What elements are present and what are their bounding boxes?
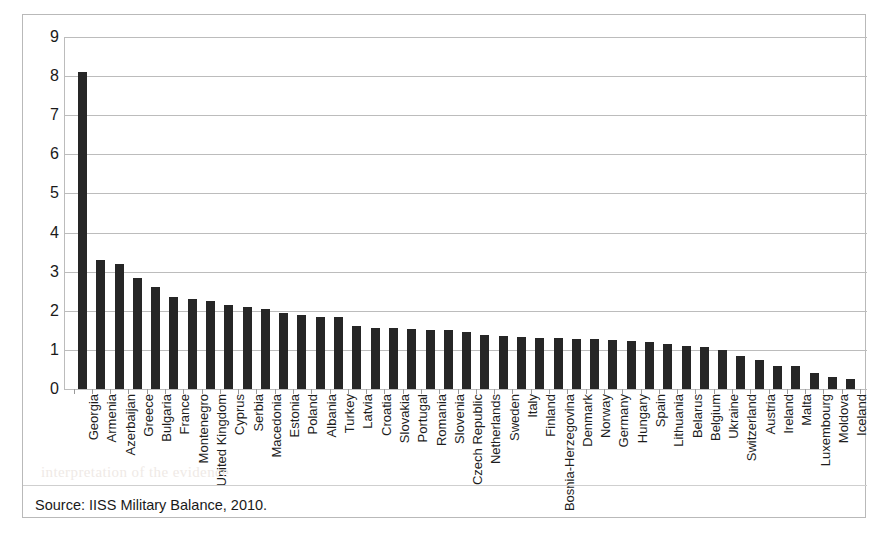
chart-plot-region: 0123456789 GeorgiaArmeniaAzerbaijanGreec… — [23, 15, 867, 458]
bar — [755, 360, 764, 389]
bar — [206, 301, 215, 389]
y-tick-label: 3 — [25, 264, 59, 280]
x-category-label: Bulgaria — [160, 394, 173, 442]
bar — [133, 278, 142, 389]
x-category-label: Sweden — [508, 394, 521, 441]
x-category-label: Norway — [599, 394, 612, 438]
bar — [371, 328, 380, 389]
bar — [663, 344, 672, 389]
x-category-label: Cyprus — [233, 394, 246, 435]
bar — [78, 72, 87, 389]
bar — [535, 338, 544, 389]
x-category-label: Slovakia — [398, 394, 411, 443]
bar — [572, 339, 581, 389]
x-category-label: Greece — [142, 394, 155, 437]
y-tick-label: 7 — [25, 107, 59, 123]
x-category-label: Italy — [526, 394, 539, 418]
y-tick-label: 4 — [25, 225, 59, 241]
bar — [96, 260, 105, 389]
bar — [736, 356, 745, 389]
x-axis-category-labels: GeorgiaArmeniaAzerbaijanGreeceBulgariaFr… — [64, 394, 867, 458]
bar — [645, 342, 654, 389]
bar — [169, 297, 178, 389]
x-category-label: Switzerland — [745, 394, 758, 461]
x-category-label: France — [178, 394, 191, 434]
bar — [810, 373, 819, 389]
bar — [480, 335, 489, 389]
bar — [718, 350, 727, 389]
bar — [426, 330, 435, 389]
x-category-label: Denmark — [581, 394, 594, 447]
x-category-label: Latvia — [361, 394, 374, 429]
bar — [352, 326, 361, 389]
x-category-label: Belgium — [709, 394, 722, 441]
x-category-label: Lithuania — [672, 394, 685, 447]
bar — [224, 305, 233, 389]
x-category-label: Albania — [325, 394, 338, 437]
x-category-label: Czech Republic — [471, 394, 484, 485]
source-caption: Source: IISS Military Balance, 2010. — [35, 497, 267, 513]
x-category-label: United Kingdom — [215, 394, 228, 487]
x-category-label: Spain — [654, 394, 667, 427]
y-tick-label: 0 — [25, 381, 59, 397]
x-category-label: Iceland — [855, 394, 868, 436]
figure-frame: 0123456789 GeorgiaArmeniaAzerbaijanGreec… — [22, 14, 866, 518]
y-tick-label: 5 — [25, 185, 59, 201]
bar — [243, 307, 252, 389]
y-tick-label: 6 — [25, 146, 59, 162]
caption-divider — [23, 485, 867, 486]
x-category-label: Macedonia — [270, 394, 283, 458]
x-category-label: Estonia — [288, 394, 301, 437]
x-category-label: Hungary — [636, 394, 649, 443]
x-category-label: Montenegro — [197, 394, 210, 463]
x-category-label: Slovenia — [453, 394, 466, 444]
x-category-label: Malta — [800, 394, 813, 426]
x-category-label: Netherlands — [489, 394, 502, 464]
x-category-label: Ireland — [782, 394, 795, 434]
bar — [407, 329, 416, 389]
x-category-label: Romania — [435, 394, 448, 446]
bars-layer — [64, 37, 867, 389]
x-category-label: Bosnia-Herzegovina — [563, 394, 576, 511]
bar — [462, 332, 471, 389]
y-tick-label: 8 — [25, 68, 59, 84]
bar — [846, 379, 855, 389]
x-category-label: Turkey — [343, 394, 356, 433]
bar — [151, 287, 160, 389]
x-category-label: Finland — [544, 394, 557, 437]
bar — [773, 366, 782, 389]
page-bleedthrough-text: interpretation of the evidence — [41, 464, 741, 481]
bar — [517, 337, 526, 389]
bar — [444, 330, 453, 389]
bar — [590, 339, 599, 389]
x-category-label: Austria — [764, 394, 777, 434]
bar — [627, 341, 636, 389]
y-axis-tick-labels: 0123456789 — [23, 37, 59, 389]
y-tick-label: 2 — [25, 303, 59, 319]
bar — [791, 366, 800, 389]
bar — [389, 328, 398, 389]
bar — [279, 313, 288, 389]
x-category-label: Portugal — [416, 394, 429, 442]
x-category-label: Georgia — [87, 394, 100, 440]
bar — [316, 317, 325, 389]
bar — [334, 317, 343, 389]
bar — [297, 315, 306, 389]
plot-canvas — [64, 37, 867, 389]
x-category-label: Poland — [306, 394, 319, 434]
x-category-label: Luxembourg — [819, 394, 832, 466]
x-category-label: Ukraine — [727, 394, 740, 439]
x-category-label: Croatia — [380, 394, 393, 436]
x-category-label: Moldova — [837, 394, 850, 443]
bar — [261, 309, 270, 389]
bar — [608, 340, 617, 389]
y-tick-label: 1 — [25, 342, 59, 358]
bar — [828, 377, 837, 389]
x-category-label: Belarus — [691, 394, 704, 438]
bar — [700, 347, 709, 389]
y-tick-label: 9 — [25, 29, 59, 45]
bar — [188, 299, 197, 389]
x-category-label: Germany — [617, 394, 630, 447]
x-category-label: Serbia — [252, 394, 265, 432]
x-category-label: Azerbaijan — [124, 394, 137, 455]
